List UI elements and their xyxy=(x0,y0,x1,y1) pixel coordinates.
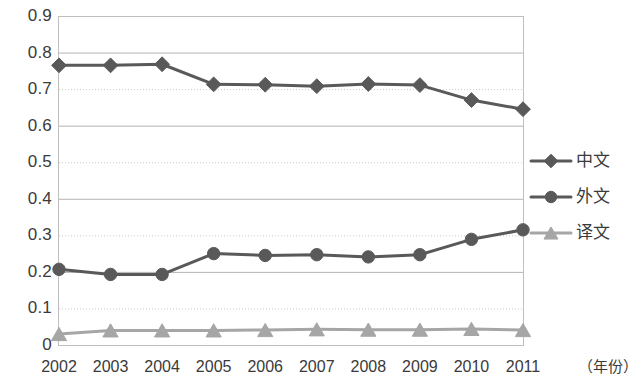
x-axis-tick-label: 2005 xyxy=(196,358,232,376)
series-triangle xyxy=(51,322,530,340)
data-point-marker xyxy=(207,247,219,259)
data-point-marker xyxy=(309,79,324,94)
triangle-marker-icon xyxy=(528,218,574,248)
x-axis-tick-labels: （年份） 20022003200420052006200720082009201… xyxy=(58,358,633,384)
circle-marker-icon xyxy=(528,182,574,212)
data-point-marker xyxy=(259,249,271,261)
data-point-marker xyxy=(53,263,65,275)
data-point-marker xyxy=(361,77,376,92)
x-axis-tick-label: 2011 xyxy=(506,358,540,376)
legend-item[interactable]: 中文 xyxy=(528,146,636,176)
data-point-marker xyxy=(156,268,168,280)
x-axis-tick-label: 2004 xyxy=(144,358,180,376)
legend-item-label: 译文 xyxy=(576,221,610,243)
x-axis-tick-label: 2006 xyxy=(247,358,283,376)
x-axis-tick-label: 2002 xyxy=(41,358,77,376)
legend-item-label: 外文 xyxy=(576,185,610,207)
x-axis-title: （年份） xyxy=(578,358,637,376)
chart-legend: 中文外文译文 xyxy=(528,146,636,251)
data-point-marker xyxy=(52,58,67,73)
x-axis-tick-label: 2010 xyxy=(454,358,490,376)
x-axis-tick-label: 2008 xyxy=(351,358,387,376)
series-line xyxy=(59,329,523,334)
data-point-marker xyxy=(464,93,479,108)
data-point-marker xyxy=(465,233,477,245)
series-diamond xyxy=(52,57,531,117)
data-point-marker xyxy=(414,249,426,261)
data-point-marker xyxy=(155,57,170,72)
data-point-marker xyxy=(104,268,116,280)
data-point-marker xyxy=(516,102,531,117)
data-series xyxy=(51,57,530,341)
data-point-marker xyxy=(103,58,118,73)
line-chart: 0.90.80.70.60.50.40.30.20.10 （年份） 200220… xyxy=(0,0,637,390)
legend-item-label: 中文 xyxy=(576,149,610,171)
x-axis-tick-label: 2007 xyxy=(299,358,335,376)
data-point-marker xyxy=(311,249,323,261)
series-line xyxy=(59,230,523,275)
data-point-marker xyxy=(362,251,374,263)
legend-item[interactable]: 外文 xyxy=(528,182,636,212)
x-axis-tick-label: 2003 xyxy=(93,358,129,376)
series-line xyxy=(59,64,523,109)
x-axis-tick-label: 2009 xyxy=(402,358,438,376)
legend-item[interactable]: 译文 xyxy=(528,218,636,248)
data-point-marker xyxy=(412,78,427,93)
diamond-marker-icon xyxy=(528,146,574,176)
